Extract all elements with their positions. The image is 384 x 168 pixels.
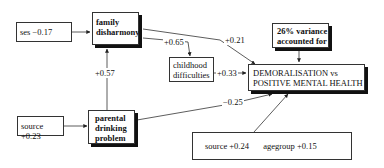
node-ses: ses −0.17 — [16, 22, 72, 42]
variance-line-1: 26% variance — [277, 26, 324, 36]
parental-line-1: parental — [95, 113, 128, 123]
source-parental-label: source +0.23 — [21, 121, 43, 141]
path-diagram: ses −0.17 family disharmony childhood di… — [0, 0, 384, 168]
node-variance: 26% variance accounted for — [272, 23, 329, 48]
label-parental-family: +0.57 — [94, 68, 116, 78]
node-covariates: source +0.24 agegroup +0.15 — [192, 132, 352, 160]
family-line-1: family — [96, 17, 135, 27]
parental-line-3: problem — [95, 133, 128, 143]
edge-parental-outcome — [137, 94, 272, 120]
label-parental-outcome: −0.25 — [222, 97, 244, 107]
parental-line-2: drinking — [95, 123, 128, 133]
family-line-2: disharmony — [96, 27, 135, 37]
childhood-line-1: childhood — [173, 60, 210, 70]
outcome-line-2: POSITIVE MENTAL HEALTH — [253, 78, 360, 88]
label-childhood-outcome: +0.33 — [216, 68, 238, 78]
node-parental-drinking: parental drinking problem — [88, 110, 135, 144]
label-family-childhood: +0.65 — [163, 37, 185, 47]
covariate-source: source +0.24 — [205, 141, 249, 151]
label-family-outcome: +0.21 — [224, 35, 246, 45]
variance-line-2: accounted for — [277, 36, 324, 46]
node-outcome: DEMORALISATION vs POSITIVE MENTAL HEALTH — [248, 64, 365, 91]
node-childhood-difficulties: childhood difficulties — [169, 57, 214, 82]
childhood-line-2: difficulties — [173, 70, 210, 80]
covariate-agegroup: agegroup +0.15 — [263, 141, 316, 151]
node-ses-label: ses −0.17 — [20, 27, 52, 37]
edge-covariates-outcome — [254, 94, 288, 132]
outcome-line-1: DEMORALISATION vs — [253, 68, 360, 78]
node-family-disharmony: family disharmony — [92, 12, 139, 45]
node-source-parental: source +0.23 — [17, 116, 64, 136]
